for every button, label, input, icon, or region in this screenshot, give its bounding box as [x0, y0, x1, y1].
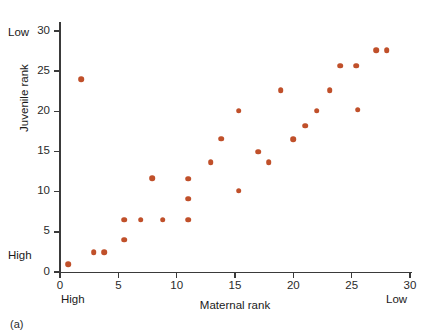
data-point — [236, 108, 242, 114]
x-tick-label: 5 — [105, 279, 131, 291]
scatter-plot-figure: 051015202530 051015202530 Juvenile rank … — [0, 0, 434, 336]
x-tick-label: 10 — [164, 279, 190, 291]
y-tick-label: 5 — [28, 224, 50, 236]
data-point — [337, 63, 343, 69]
y-axis-annotation-low: Low — [8, 26, 29, 38]
data-point — [186, 176, 192, 182]
x-axis-title: Maternal rank — [60, 299, 410, 311]
y-axis-annotation-high: High — [8, 249, 32, 261]
x-tick-mark — [176, 273, 177, 278]
y-tick-mark — [54, 151, 59, 152]
data-point — [121, 217, 127, 223]
y-axis-title: Juvenile rank — [18, 38, 30, 158]
y-tick-mark — [54, 231, 59, 232]
x-tick-label: 30 — [397, 279, 423, 291]
x-tick-label: 0 — [47, 279, 73, 291]
data-point — [149, 175, 155, 181]
data-point — [138, 217, 144, 223]
y-tick-mark — [54, 70, 59, 71]
data-point — [65, 261, 71, 267]
x-tick-mark — [351, 273, 352, 278]
x-tick-mark — [293, 273, 294, 278]
data-point — [186, 217, 192, 223]
x-tick-mark — [234, 273, 235, 278]
y-tick-mark — [54, 271, 59, 272]
y-tick-label: 0 — [28, 265, 50, 277]
data-point — [373, 47, 379, 53]
y-tick-mark — [54, 30, 59, 31]
data-point — [355, 107, 361, 113]
x-tick-label: 25 — [339, 279, 365, 291]
y-tick-label: 25 — [28, 64, 50, 76]
data-point — [302, 123, 308, 129]
y-tick-mark — [54, 111, 59, 112]
x-axis-annotation-high: High — [61, 293, 85, 305]
panel-label: (a) — [10, 318, 23, 330]
data-point — [160, 217, 166, 223]
x-tick-mark — [59, 273, 60, 278]
y-tick-label: 20 — [28, 104, 50, 116]
data-point — [291, 137, 297, 143]
data-point — [384, 47, 390, 53]
x-tick-mark — [409, 273, 410, 278]
x-tick-label: 15 — [222, 279, 248, 291]
x-tick-mark — [118, 273, 119, 278]
y-tick-label: 10 — [28, 184, 50, 196]
data-point — [236, 188, 242, 194]
data-point — [78, 76, 84, 82]
plot-area — [60, 31, 410, 272]
data-point — [278, 88, 284, 94]
data-point — [208, 159, 214, 165]
x-tick-label: 20 — [280, 279, 306, 291]
data-point — [218, 136, 224, 142]
data-point — [266, 159, 272, 165]
data-point — [186, 196, 192, 202]
y-tick-label: 30 — [28, 24, 50, 36]
x-axis-annotation-low: Low — [386, 293, 407, 305]
data-point — [354, 63, 360, 69]
y-tick-label: 15 — [28, 144, 50, 156]
data-point — [256, 149, 262, 155]
y-tick-mark — [54, 191, 59, 192]
data-point — [121, 237, 127, 243]
data-point — [327, 88, 333, 94]
data-point — [314, 108, 320, 114]
data-point — [102, 249, 108, 255]
data-point — [91, 249, 97, 255]
